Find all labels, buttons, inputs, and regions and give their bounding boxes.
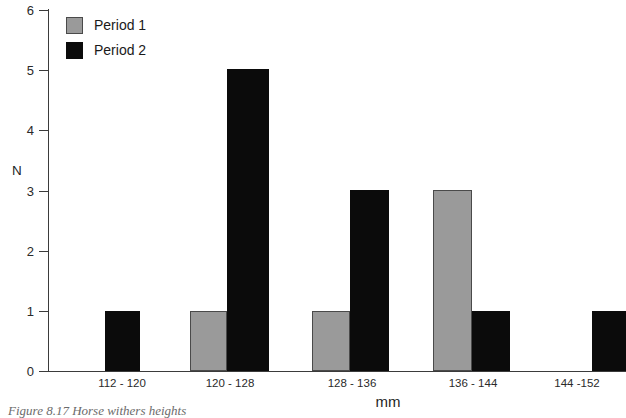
legend-label-period-1: Period 1 <box>94 18 146 33</box>
y-axis-title: N <box>12 164 22 178</box>
x-tick-label-1: 120 - 128 <box>180 377 280 389</box>
chart-legend: Period 1 Period 2 <box>66 13 196 63</box>
period-2-swatch-icon <box>66 42 83 59</box>
y-tick-label-3: 3 <box>8 185 34 198</box>
y-axis-line <box>48 9 49 372</box>
y-tick-label-6: 6 <box>8 4 34 17</box>
bar-period-2-bin-4 <box>592 311 626 371</box>
bar-period-2-bin-3 <box>472 311 510 371</box>
x-tick-label-0: 112 - 120 <box>72 377 172 389</box>
legend-item-period-1: Period 1 <box>66 13 196 38</box>
y-tick-label-1: 1 <box>8 305 34 318</box>
y-tick-0 <box>39 371 48 372</box>
bar-period-2-bin-0 <box>105 311 140 371</box>
y-tick-4 <box>39 130 48 131</box>
bar-period-1-bin-3 <box>433 190 472 371</box>
y-tick-5 <box>39 70 48 71</box>
bar-period-1-bin-1 <box>190 311 227 371</box>
x-tick-label-4: 144 -152 <box>527 377 626 389</box>
y-tick-label-0: 0 <box>8 365 34 378</box>
bar-period-2-bin-2 <box>350 190 389 371</box>
bar-period-1-bin-2 <box>312 311 350 371</box>
y-tick-label-5: 5 <box>8 64 34 77</box>
period-1-swatch-icon <box>66 17 83 34</box>
figure-caption: Figure 8.17 Horse withers heights <box>8 403 186 418</box>
bar-period-2-bin-1 <box>227 69 269 371</box>
x-axis-line <box>48 371 626 372</box>
x-tick-label-2: 128 - 136 <box>302 377 402 389</box>
legend-item-period-2: Period 2 <box>66 38 196 63</box>
y-tick-6 <box>39 10 48 11</box>
legend-label-period-2: Period 2 <box>94 43 146 58</box>
y-tick-label-2: 2 <box>8 245 34 258</box>
y-tick-3 <box>39 191 48 192</box>
y-tick-1 <box>39 311 48 312</box>
y-tick-label-4: 4 <box>8 124 34 137</box>
x-tick-label-3: 136 - 144 <box>423 377 523 389</box>
y-tick-2 <box>39 251 48 252</box>
